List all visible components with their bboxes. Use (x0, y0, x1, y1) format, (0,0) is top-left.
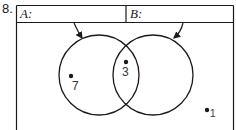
point-3-label: 3 (122, 65, 129, 79)
arrow-to-set-a (74, 23, 82, 38)
point-1-label: 1 (210, 108, 216, 119)
point-7-label: 7 (72, 79, 79, 93)
venn-diagram: A: B: 7 3 1 (0, 0, 236, 130)
point-7-dot (69, 74, 73, 78)
point-3-dot (124, 60, 128, 64)
point-1-dot (205, 108, 209, 112)
set-b-label: B: (130, 6, 142, 21)
set-a-label: A: (19, 6, 32, 21)
arrow-to-set-b (174, 23, 183, 38)
